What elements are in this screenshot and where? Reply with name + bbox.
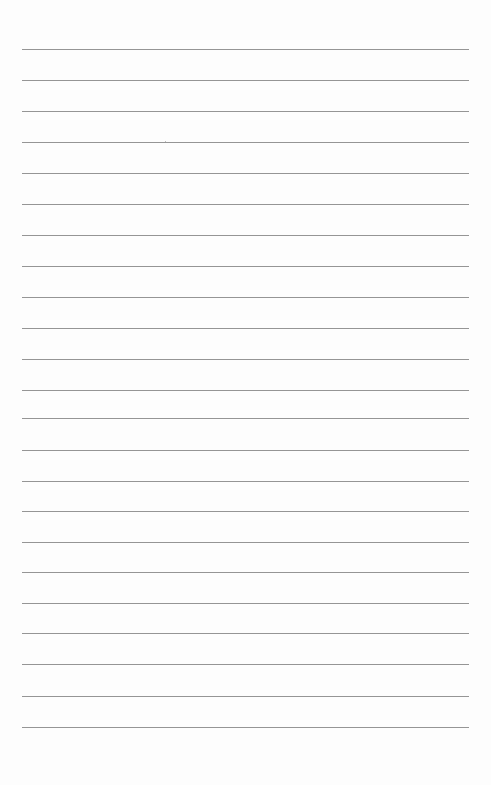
ruled-line	[22, 266, 469, 267]
ruled-line	[22, 696, 469, 697]
ruled-line	[22, 572, 469, 573]
ruled-line	[22, 633, 469, 634]
ruled-line	[22, 664, 469, 665]
ruled-line	[22, 328, 469, 329]
ruled-line	[22, 80, 469, 81]
ruled-line	[22, 511, 469, 512]
ruled-line	[22, 603, 469, 604]
ruled-line	[22, 727, 469, 728]
ruled-line	[22, 450, 469, 451]
ruled-line	[22, 418, 469, 419]
ruled-line	[22, 297, 469, 298]
ruled-line	[22, 542, 469, 543]
ruled-line	[22, 204, 469, 205]
lined-paper-page	[0, 0, 491, 785]
ruled-line	[22, 111, 469, 112]
ruled-line	[22, 142, 469, 143]
ruled-line	[22, 359, 469, 360]
ruled-line	[22, 173, 469, 174]
ruled-line	[22, 49, 469, 50]
ruled-line	[22, 390, 469, 391]
ruled-line	[22, 481, 469, 482]
ruled-line	[22, 235, 469, 236]
